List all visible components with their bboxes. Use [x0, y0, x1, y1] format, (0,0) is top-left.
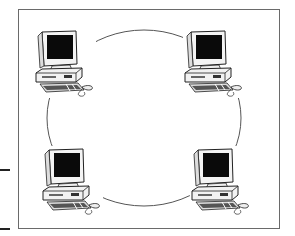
desktop-computer-icon-top-left — [34, 28, 96, 98]
desktop-computer-icon-bottom-left — [41, 146, 103, 216]
ring-network-diagram — [0, 0, 295, 236]
desktop-computer-icon-top-right — [183, 28, 245, 98]
desktop-computer-icon-bottom-right — [190, 146, 252, 216]
